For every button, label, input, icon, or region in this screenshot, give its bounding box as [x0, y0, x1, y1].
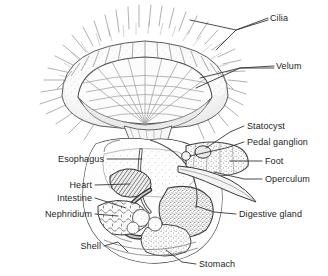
label-digestive-gland: Digestive gland	[239, 209, 302, 219]
label-heart: Heart	[0, 180, 92, 190]
label-intestine: Intestine	[0, 193, 92, 203]
veliger-larva-diagram: Cilia Velum Statocyst Pedal ganglion Foo…	[0, 0, 328, 276]
label-shell: Shell	[0, 241, 101, 251]
label-cilia: Cilia	[270, 13, 288, 23]
accessory-lobe-b	[148, 217, 162, 231]
velum-group	[40, 5, 247, 160]
label-foot: Foot	[265, 156, 283, 166]
accessory-lobe-c	[127, 222, 139, 234]
label-esophagus: Esophagus	[0, 154, 104, 164]
label-operculum: Operculum	[265, 174, 310, 184]
label-pedal-ganglion: Pedal ganglion	[247, 137, 308, 147]
pedal-ganglion-organ	[182, 152, 191, 161]
label-stomach: Stomach	[199, 259, 235, 269]
leader-cilia-lower	[216, 20, 268, 50]
stomach-organ	[141, 224, 191, 256]
label-nephridium: Nephridium	[0, 209, 92, 219]
label-velum: Velum	[276, 61, 302, 71]
label-statocyst: Statocyst	[247, 121, 285, 131]
